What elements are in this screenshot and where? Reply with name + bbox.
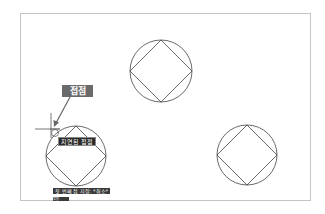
circle-top[interactable] <box>130 40 192 102</box>
tangent-snap-marker-icon <box>50 129 60 137</box>
shape-left[interactable] <box>46 126 106 186</box>
shape-right[interactable] <box>217 125 277 185</box>
command-line-prompt[interactable]: 명령: <box>53 197 69 201</box>
circle-left[interactable] <box>46 126 106 186</box>
tangent-callout-label: 접점 <box>62 85 93 97</box>
circle-right[interactable] <box>217 125 277 185</box>
callout-arrow-icon <box>54 97 71 127</box>
command-line-history: 첫 번째 점 지정: *취소* <box>53 188 110 194</box>
drawing-canvas[interactable] <box>0 0 325 214</box>
osnap-tooltip: 지연된 접점 <box>58 137 96 146</box>
shape-top[interactable] <box>130 40 192 102</box>
crosshair-cursor-icon <box>35 113 60 138</box>
